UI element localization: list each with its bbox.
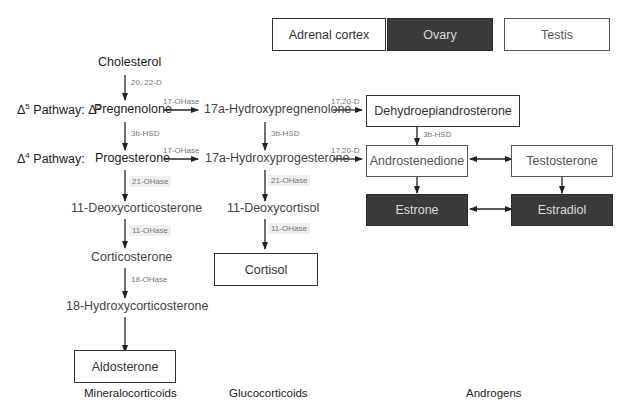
node-progesterone: Progesterone [95, 151, 170, 165]
node-dhea: Dehydroepiandrosterone [366, 95, 520, 127]
enzyme-17-20-d-bottom: 17,20-D [331, 146, 359, 155]
node-hydroxycorticosterone: 18-Hydroxycorticosterone [66, 299, 208, 313]
enzyme-17-ohase-bottom: 17-OHase [163, 146, 199, 155]
enzyme-17-ohase-top: 17-OHase [163, 97, 199, 106]
pathway-text: Pathway: [33, 103, 84, 117]
node-deoxycorticosterone: 11-Deoxycorticosterone [71, 201, 202, 215]
node-corticosterone: Corticosterone [91, 250, 172, 264]
enzyme-17-20-d-top: 17,20-D [331, 97, 359, 106]
node-pregnenolone: Pregnenolone [94, 102, 172, 116]
node-estrone: Estrone [366, 194, 468, 226]
node-aldosterone: Aldosterone [74, 350, 176, 383]
node-11-deoxycortisol: 11-Deoxycortisol [227, 201, 319, 215]
enzyme-3b-hsd-col1: 3b-HSD [131, 129, 159, 138]
node-testosterone: Testosterone [511, 145, 613, 177]
node-estradiol: Estradiol [511, 194, 613, 226]
superscript: 4 [25, 151, 29, 160]
delta5-pathway-label: Δ5 Pathway: Δ5 [17, 102, 101, 117]
node-androstenedione: Androstenedione [366, 145, 468, 177]
enzyme-18-ohase: 18-OHase [131, 275, 167, 284]
enzyme-20-22-desmolase: 20, 22-D [131, 78, 162, 87]
superscript: 5 [25, 102, 29, 111]
category-androgens: Androgens [466, 387, 522, 399]
category-mineralocorticoids: Mineralocorticoids [84, 387, 177, 399]
enzyme-21-ohase-col2: 21-OHase [268, 175, 310, 186]
node-17-hydroxypregnenolone: 17a-Hydroxypregnenolone [204, 102, 351, 116]
pathway-text: Pathway: [33, 152, 84, 166]
enzyme-11-ohase-col2: 11-OHase [268, 223, 310, 234]
enzyme-3b-hsd-col2: 3b-HSD [271, 129, 299, 138]
node-cortisol: Cortisol [214, 253, 318, 286]
category-glucocorticoids: Glucocorticoids [229, 387, 308, 399]
enzyme-3b-hsd-col3: 3b-HSD [423, 130, 451, 139]
node-17-hydroxyprogesterone: 17a-Hydroxyprogesterone [205, 151, 350, 165]
delta4-pathway-label: Δ4 Pathway: [17, 151, 85, 166]
enzyme-21-ohase-col1: 21-OHase [129, 176, 171, 187]
enzyme-11-ohase-col1: 11-OHase [129, 225, 171, 236]
node-cholesterol: Cholesterol [98, 55, 161, 69]
